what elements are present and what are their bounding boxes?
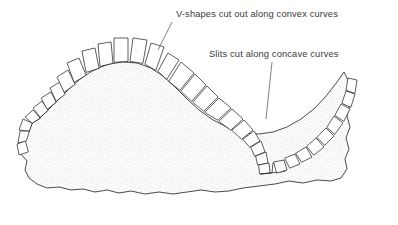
leader-line-convex — [158, 22, 172, 50]
flap-concave-10 — [259, 163, 270, 174]
flap-convex-12 — [114, 38, 128, 62]
annotation-label-convex: V-shapes cut out along convex curves — [176, 9, 338, 19]
leader-line-concave — [266, 62, 272, 119]
flap-convex-13 — [130, 38, 147, 63]
figure-root: V-shapes cut out along convex curves Sli… — [0, 0, 398, 225]
annotation-label-concave: Slits cut along concave curves — [209, 49, 339, 59]
flap-convex-11 — [98, 42, 113, 66]
flap-convex-10 — [82, 48, 99, 72]
flap-concave-20 — [346, 78, 357, 93]
hide-diagram-svg: V-shapes cut out along convex curves Sli… — [0, 0, 398, 225]
annotation-labels: V-shapes cut out along convex curves Sli… — [176, 9, 339, 59]
